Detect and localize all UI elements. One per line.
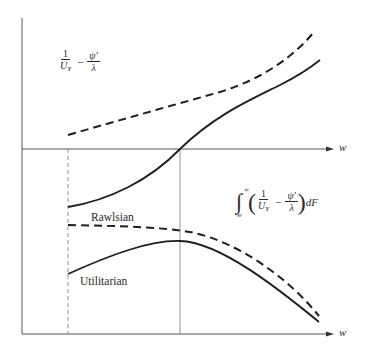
rawlsian-label: Rawlsian [91,211,134,223]
lower-x-axis-label: w [339,326,346,338]
upper-x-axis-label: w [339,141,346,153]
diagram-canvas [0,0,366,357]
integral-symbol: ∫∞w [236,189,242,214]
fraction-1-over-uy: 1 UY [256,188,271,215]
fraction-psi-over-lambda: ψ′ λ [87,50,99,73]
fraction-1-over-uy: 1 UY [58,48,73,75]
upper-solid-curve [68,60,320,207]
rawlsian-curve [68,225,319,316]
lower-formula-label: ∫∞w( 1 UY − ψ′ λ )dF [236,188,318,215]
upper-x-axis-arrowhead [326,147,334,152]
upper-formula-label: 1 UY − ψ′ λ [58,48,100,75]
utilitarian-label: Utilitarian [80,275,127,287]
upper-dashed-curve [68,32,314,135]
fraction-psi-over-lambda: ψ′ λ [285,190,297,213]
lower-x-axis-arrowhead [326,332,334,337]
